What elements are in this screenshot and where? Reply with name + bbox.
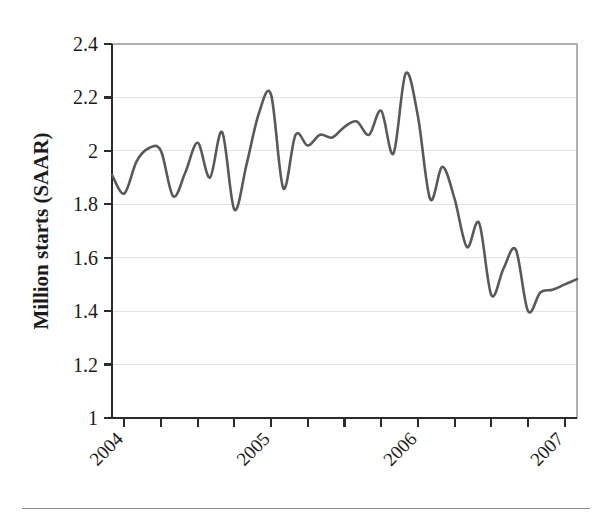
y-axis-tick-label: 1.8 [73, 193, 98, 215]
y-axis-tick-label: 2.2 [73, 86, 98, 108]
y-axis-tick-label: 2 [88, 140, 98, 162]
housing-starts-chart: 2.42.221.81.61.41.21 2004200520062007 Mi… [0, 0, 606, 518]
y-axis-tick-label: 1.6 [73, 247, 98, 269]
y-axis-tick-label: 2.4 [73, 33, 98, 55]
y-axis-tick-label: 1.4 [73, 300, 98, 322]
y-axis-tick-label: 1.2 [73, 354, 98, 376]
y-axis-title: Million starts (SAAR) [29, 132, 53, 329]
y-axis-tick-label: 1 [88, 407, 98, 429]
